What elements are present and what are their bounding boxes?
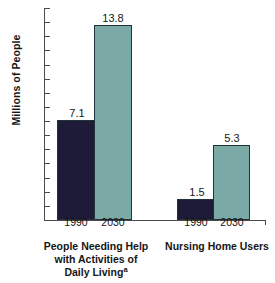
bar-group-0: 7.113.8	[57, 8, 133, 220]
bar-value-label: 13.8	[91, 12, 135, 24]
y-tick-0	[45, 220, 50, 221]
bar-1-2030: 5.3	[213, 145, 250, 220]
y-tick-11	[45, 65, 50, 66]
caption-line: Nursing Home Users	[158, 240, 275, 253]
y-tick-1	[45, 206, 50, 207]
y-tick-14	[45, 22, 50, 23]
y-tick-5	[45, 149, 50, 150]
y-tick-7	[45, 121, 50, 122]
caption-line: People Needing Help	[26, 240, 166, 253]
caption-line: with Activities of	[26, 253, 166, 266]
category-caption-1: Nursing Home Users	[158, 240, 275, 253]
y-tick-13	[45, 36, 50, 37]
bar-0-2030: 13.8	[94, 25, 132, 220]
caption-line: Daily Livinga	[26, 266, 166, 279]
y-tick-2	[45, 192, 50, 193]
plot-area: 1514131211109876543210 7.113.81.55.3	[44, 8, 266, 221]
year-label-0-2030: 2030	[91, 216, 135, 228]
bar-0-1990: 7.1	[57, 120, 95, 220]
y-tick-8	[45, 107, 50, 108]
y-tick-10	[45, 79, 50, 80]
x-axis-end-tick	[265, 220, 266, 225]
y-tick-3	[45, 178, 50, 179]
year-label-1-2030: 2030	[210, 216, 254, 228]
bar-group-1: 1.55.3	[177, 8, 250, 220]
bar-value-label: 5.3	[210, 132, 254, 144]
category-caption-0: People Needing Helpwith Activities ofDai…	[26, 240, 166, 279]
footnote-marker: a	[123, 265, 127, 274]
y-axis-title: Millions of People	[10, 20, 22, 140]
y-axis-line	[44, 8, 45, 221]
bar-value-label: 7.1	[55, 107, 99, 119]
y-tick-9	[45, 93, 50, 94]
bar-chart: Millions of People 151413121110987654321…	[0, 0, 275, 283]
y-tick-6	[45, 135, 50, 136]
y-tick-4	[45, 163, 50, 164]
y-tick-15	[45, 8, 50, 9]
y-tick-12	[45, 50, 50, 51]
